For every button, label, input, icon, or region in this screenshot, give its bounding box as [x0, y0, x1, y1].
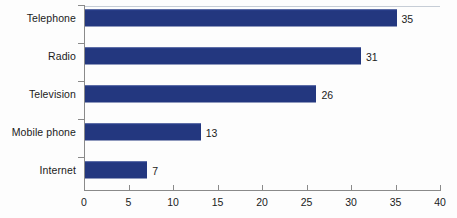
category-tick [78, 157, 85, 158]
value-tick-label: 25 [301, 196, 313, 208]
bar-group: 31 [85, 48, 378, 65]
category-label: Mobile phone [0, 126, 76, 138]
value-tick-label: 20 [256, 196, 268, 208]
bar[interactable] [85, 124, 201, 141]
bar-row-telephone: Telephone 35 [0, 0, 457, 36]
bar[interactable] [85, 48, 361, 65]
bar-row-internet: Internet 7 [0, 152, 457, 188]
value-tick [173, 185, 174, 191]
value-tick [84, 185, 85, 191]
category-tick [78, 5, 85, 6]
bar-row-television: Television 26 [0, 76, 457, 112]
value-tick [262, 185, 263, 191]
value-tick-label: 0 [81, 196, 87, 208]
bar-value-label: 35 [402, 12, 414, 24]
category-label: Television [0, 88, 76, 100]
category-tick [78, 81, 85, 82]
bar-value-label: 31 [366, 50, 378, 62]
category-label: Radio [0, 50, 76, 62]
value-tick [396, 185, 397, 191]
bar-row-mobile-phone: Mobile phone 13 [0, 114, 457, 150]
bar-group: 26 [85, 86, 333, 103]
value-tick [129, 185, 130, 191]
value-tick-label: 5 [126, 196, 132, 208]
value-tick-label: 10 [167, 196, 179, 208]
value-tick [351, 185, 352, 191]
bar-value-label: 26 [321, 88, 333, 100]
bar-value-label: 7 [152, 164, 158, 176]
bar-row-radio: Radio 31 [0, 38, 457, 74]
value-tick [218, 185, 219, 191]
category-tick [78, 119, 85, 120]
value-tick-label: 35 [390, 196, 402, 208]
value-tick [440, 185, 441, 191]
bar-group: 35 [85, 10, 413, 27]
value-tick-label: 30 [345, 196, 357, 208]
bar-chart: Telephone 35 Radio 31 Television 26 Mobi… [0, 0, 457, 218]
bar-group: 13 [85, 124, 217, 141]
category-label: Internet [0, 164, 76, 176]
category-label: Telephone [0, 12, 76, 24]
bar[interactable] [85, 10, 397, 27]
bar[interactable] [85, 162, 147, 179]
bar[interactable] [85, 86, 316, 103]
bar-group: 7 [85, 162, 158, 179]
value-tick [307, 185, 308, 191]
category-tick [78, 43, 85, 44]
value-tick-label: 15 [212, 196, 224, 208]
bar-value-label: 13 [206, 126, 218, 138]
value-tick-label: 40 [434, 196, 446, 208]
